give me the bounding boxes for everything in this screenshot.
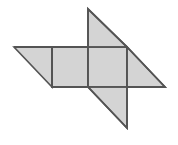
center-square-right-half — [88, 47, 127, 87]
center-square-left-half — [52, 47, 88, 87]
pinwheel-figure-canvas — [0, 0, 178, 145]
